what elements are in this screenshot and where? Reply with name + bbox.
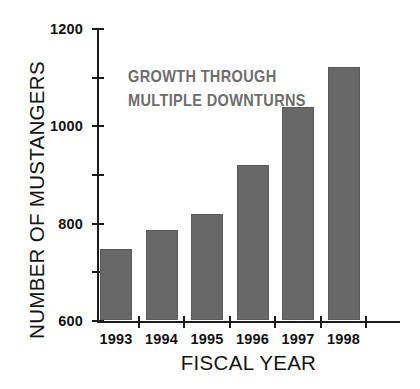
x-tick-label: 1993 <box>99 331 132 347</box>
bar <box>237 165 269 320</box>
y-tick-mark: 800 <box>92 125 104 127</box>
x-tick-mark <box>183 316 185 328</box>
x-tick-mark <box>365 316 367 328</box>
bar <box>191 214 223 320</box>
bar-chart-figure: NUMBER OF MUSTANGERS 0200400600800100012… <box>0 0 420 389</box>
x-tick-label: 1997 <box>281 331 314 347</box>
x-tick-mark <box>138 316 140 328</box>
x-tick-label: 1996 <box>236 331 269 347</box>
y-axis-title: NUMBER OF MUSTANGERS <box>25 50 49 350</box>
bar <box>328 67 360 320</box>
annotation-line: MULTIPLE DOWNTURNS <box>128 88 306 112</box>
x-tick-label: 1998 <box>327 331 360 347</box>
y-tick-mark: 0 <box>92 320 104 322</box>
x-tick-label: 1995 <box>190 331 223 347</box>
bar <box>146 230 178 320</box>
annotation-line: GROWTH THROUGH <box>128 64 306 88</box>
y-tick-label: 1200 <box>50 21 83 37</box>
y-tick-label: 800 <box>58 216 83 232</box>
bar <box>282 107 314 320</box>
y-tick-mark: 1200 <box>92 28 104 30</box>
x-tick-mark <box>229 316 231 328</box>
x-tick-mark <box>274 316 276 328</box>
bar <box>100 249 132 320</box>
y-tick-mark: 600 <box>92 174 104 176</box>
y-tick-mark: 1000 <box>92 77 104 79</box>
y-tick-label: 600 <box>58 313 83 329</box>
x-axis-line <box>97 321 400 323</box>
y-tick-label: 1000 <box>50 118 83 134</box>
x-tick-mark <box>320 316 322 328</box>
chart-annotation: GROWTH THROUGHMULTIPLE DOWNTURNS <box>128 64 306 112</box>
x-axis-title: FISCAL YEAR <box>97 351 400 375</box>
x-tick-label: 1994 <box>145 331 178 347</box>
y-tick-mark: 400 <box>92 223 104 225</box>
